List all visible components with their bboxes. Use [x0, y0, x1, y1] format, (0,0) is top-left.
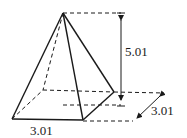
base-width-label: 3.01 [30, 123, 53, 138]
base-depth-label: 3.01 [151, 103, 174, 118]
hidden-edge-base-left [12, 90, 43, 119]
edge-base-front [12, 119, 83, 120]
pyramid-diagram: 5.01 3.01 3.01 [0, 0, 187, 138]
hidden-edge-base-back [43, 90, 114, 92]
hidden-edge-apex-back-left [43, 13, 63, 90]
height-label: 5.01 [125, 44, 148, 59]
edge-base-right [83, 92, 114, 120]
edge-apex-front-left [12, 13, 63, 119]
